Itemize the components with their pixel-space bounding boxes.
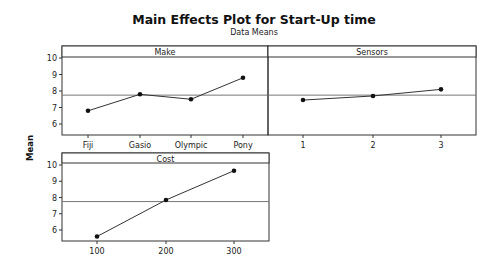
panel-frame: [268, 46, 476, 135]
panel-frame: [62, 46, 268, 135]
main-effects-chart: Main Effects Plot for Start-Up time Data…: [0, 0, 499, 271]
y-tick-label: 6: [52, 226, 57, 235]
x-tick-label: 300: [226, 247, 241, 256]
data-point: [95, 234, 100, 239]
data-point: [301, 98, 306, 103]
x-tick-label: Olympic: [175, 141, 208, 150]
series-line: [97, 171, 234, 237]
data-point: [138, 92, 143, 97]
x-tick-label: 2: [370, 141, 375, 150]
data-point: [86, 109, 91, 114]
data-point: [232, 168, 237, 173]
x-tick-label: 1: [300, 141, 305, 150]
panel-make: Make678910FijiGasioOlympicPony: [47, 46, 268, 150]
panel-label: Sensors: [356, 48, 388, 57]
chart-subtitle: Data Means: [230, 28, 278, 37]
y-axis-label: Mean: [25, 135, 35, 161]
y-tick-label: 9: [52, 71, 57, 80]
x-tick-label: 100: [89, 247, 104, 256]
y-tick-label: 10: [47, 161, 57, 170]
y-tick-label: 7: [52, 210, 57, 219]
data-point: [371, 94, 376, 99]
y-tick-label: 6: [52, 120, 57, 129]
x-tick-label: 3: [438, 141, 443, 150]
y-tick-label: 8: [52, 87, 57, 96]
y-tick-label: 8: [52, 194, 57, 203]
data-point: [164, 198, 169, 203]
data-point: [439, 87, 444, 92]
panel-frame: [62, 153, 269, 241]
series-line: [88, 78, 243, 111]
panel-sensors: Sensors123: [268, 46, 476, 150]
panel-cost: Cost678910100200300: [47, 153, 269, 256]
x-tick-label: Fiji: [83, 141, 94, 150]
chart-title: Main Effects Plot for Start-Up time: [132, 12, 376, 27]
panel-label: Make: [154, 48, 175, 57]
x-tick-label: Gasio: [129, 141, 151, 150]
x-tick-label: 200: [158, 247, 173, 256]
data-point: [189, 97, 194, 102]
y-tick-label: 7: [52, 104, 57, 113]
x-tick-label: Pony: [233, 141, 253, 150]
y-tick-label: 9: [52, 177, 57, 186]
panel-label: Cost: [157, 155, 175, 164]
data-point: [241, 76, 246, 81]
y-tick-label: 10: [47, 54, 57, 63]
